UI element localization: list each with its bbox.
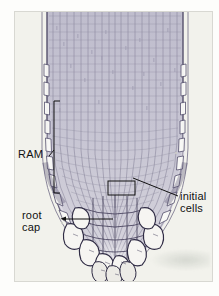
root-cap-label-line2: cap <box>22 221 40 233</box>
figure-root-tip: RAM root cap initial cells <box>0 0 219 296</box>
slide-smudge <box>150 249 210 271</box>
ram-label: RAM <box>18 149 43 161</box>
root-cap-label-line1: root <box>22 209 42 221</box>
dust-speck <box>61 222 63 224</box>
micrograph-panel <box>14 11 213 282</box>
dust-speck <box>175 152 177 154</box>
micrograph-canvas <box>15 12 212 281</box>
initial-cells-label-line2: cells <box>180 202 203 214</box>
root-tip-micrograph <box>15 12 213 282</box>
initial-cells-label-line1: initial <box>180 190 206 202</box>
